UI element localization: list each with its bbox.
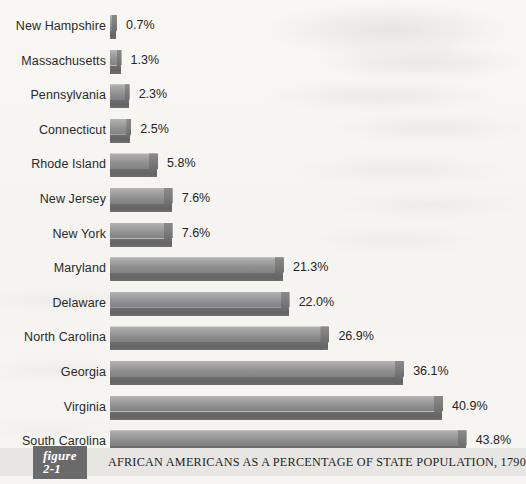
bar-row: New Jersey7.6% <box>0 188 526 214</box>
bar <box>110 396 442 420</box>
bar-top-face <box>110 396 442 412</box>
bar-chart-plot: New Hampshire0.7%Massachusetts1.3%Pennsy… <box>0 0 526 446</box>
bar-top-face <box>110 188 172 204</box>
bar-top-face <box>110 326 328 342</box>
bar-category-label: Pennsylvania <box>0 84 106 106</box>
bar-top-face <box>110 361 403 377</box>
bar <box>110 257 283 281</box>
bar <box>110 361 403 385</box>
bar-category-label: New York <box>0 223 106 245</box>
bar-category-label: Massachusetts <box>0 50 106 72</box>
bar-row: Georgia36.1% <box>0 361 526 387</box>
bar-category-label: Rhode Island <box>0 153 106 175</box>
bar-top-face <box>110 223 172 239</box>
bar-value-label: 7.6% <box>182 223 211 243</box>
bar <box>110 188 172 212</box>
bar <box>110 326 328 350</box>
bar-category-label: Delaware <box>0 292 106 314</box>
bar <box>110 119 130 143</box>
bar-row: Rhode Island5.8% <box>0 153 526 179</box>
bar-row: New Hampshire0.7% <box>0 15 526 41</box>
bar-bottom-face <box>110 273 283 281</box>
bar <box>110 223 172 247</box>
bar-bottom-face <box>110 342 328 350</box>
bar-value-label: 22.0% <box>299 292 334 312</box>
bar <box>110 50 121 74</box>
bar-value-label: 7.6% <box>182 188 211 208</box>
bar-bottom-face <box>110 308 289 316</box>
bar-value-label: 21.3% <box>293 257 328 277</box>
bar-top-face <box>110 257 283 273</box>
figure-number-badge: figure 2-1 <box>33 446 87 479</box>
bar <box>110 153 157 177</box>
bar-bottom-face <box>110 377 403 385</box>
bar-row: New York7.6% <box>0 223 526 249</box>
bar-bottom-face <box>110 204 172 212</box>
bar-row: Massachusetts1.3% <box>0 50 526 76</box>
bar-category-label: Virginia <box>0 396 106 418</box>
bar-category-label: New Jersey <box>0 188 106 210</box>
bar-bottom-face <box>110 239 172 247</box>
figure-caption-text: AFRICAN AMERICANS AS A PERCENTAGE OF STA… <box>108 455 526 470</box>
bar-row: Virginia40.9% <box>0 396 526 422</box>
bar-row: Pennsylvania2.3% <box>0 84 526 110</box>
bar-value-label: 36.1% <box>413 361 448 381</box>
figure-caption-bar: figure 2-1 AFRICAN AMERICANS AS A PERCEN… <box>0 448 526 476</box>
figure-2-1: New Hampshire0.7%Massachusetts1.3%Pennsy… <box>0 0 526 484</box>
bar-category-label: Connecticut <box>0 119 106 141</box>
bar-row: North Carolina26.9% <box>0 326 526 352</box>
bar-value-label: 2.5% <box>140 119 169 139</box>
bar-category-label: New Hampshire <box>0 15 106 37</box>
bar-row: Delaware22.0% <box>0 292 526 318</box>
bar-row: Maryland21.3% <box>0 257 526 283</box>
bar-category-label: Maryland <box>0 257 106 279</box>
bar-top-face <box>110 292 289 308</box>
bar <box>110 292 289 316</box>
bar <box>110 84 129 108</box>
bar-bottom-face <box>110 412 442 420</box>
bar-value-label: 0.7% <box>126 15 155 35</box>
bar-row: Connecticut2.5% <box>0 119 526 145</box>
bar-top-face <box>110 430 466 446</box>
bar-category-label: North Carolina <box>0 326 106 348</box>
bar-value-label: 2.3% <box>139 84 168 104</box>
bar-value-label: 1.3% <box>131 50 160 70</box>
bar-value-label: 40.9% <box>452 396 487 416</box>
bar-value-label: 5.8% <box>167 153 196 173</box>
bar-value-label: 26.9% <box>338 326 373 346</box>
bar <box>110 15 116 39</box>
bar-category-label: Georgia <box>0 361 106 383</box>
